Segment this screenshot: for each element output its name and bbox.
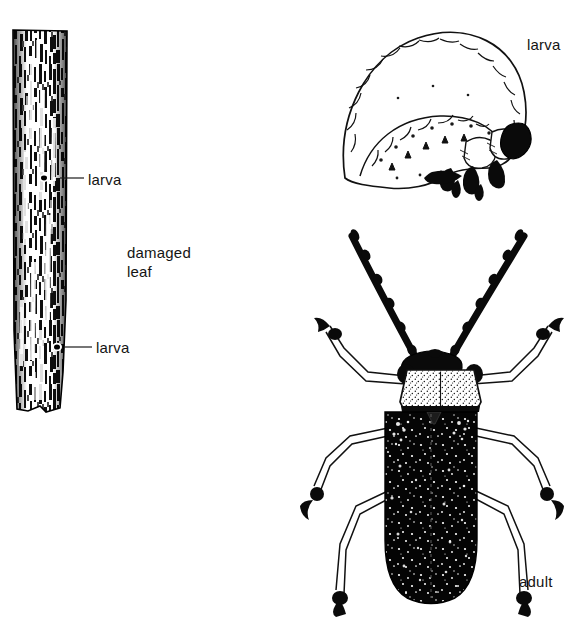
label-damaged-leaf-line1: damaged: [127, 244, 191, 261]
pronotum: [400, 370, 481, 412]
label-larva-grub: larva: [527, 35, 561, 54]
label-damaged-leaf-line2: leaf: [127, 263, 152, 280]
elytra: [385, 412, 477, 604]
label-larva-leaf-bottom: larva: [96, 338, 130, 357]
label-damaged-leaf: damagedleaf: [127, 243, 191, 281]
label-adult: adult: [519, 572, 553, 591]
beetle-life-cycle-illustration: [0, 0, 580, 617]
label-larva-leaf-top: larva: [88, 170, 122, 189]
